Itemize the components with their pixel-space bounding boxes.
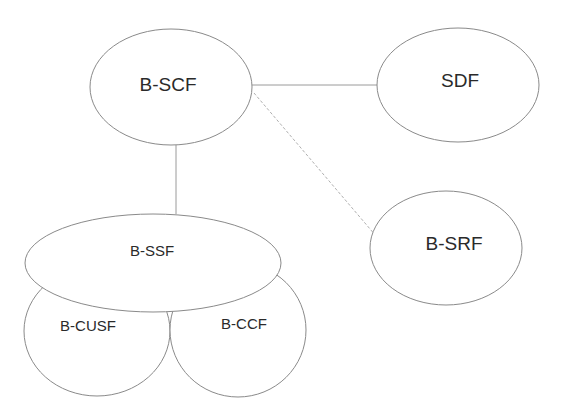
label-b-srf: B-SRF: [426, 233, 483, 254]
label-sdf: SDF: [441, 70, 479, 91]
functional-architecture-diagram: B-SCF SDF B-SRF B-SSF B-CUSF B-CCF: [0, 0, 563, 410]
node-b-ssf: [25, 214, 281, 312]
label-b-ccf: B-CCF: [221, 315, 267, 332]
label-b-cusf: B-CUSF: [60, 317, 116, 334]
label-b-scf: B-SCF: [140, 74, 197, 95]
edge-bscf-bsrf: [254, 93, 382, 243]
label-b-ssf: B-SSF: [130, 242, 174, 259]
